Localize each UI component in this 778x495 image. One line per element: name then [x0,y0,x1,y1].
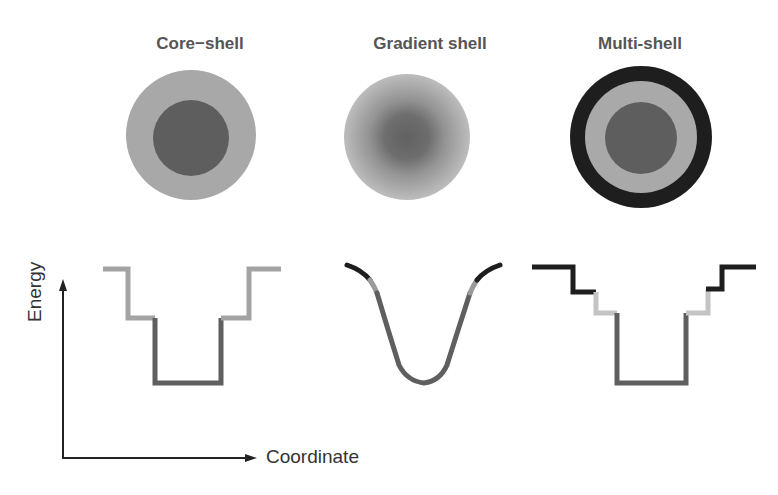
energy-axis [59,279,67,458]
energy-axis-label: Energy [24,262,46,322]
coordinate-axis [62,454,257,462]
diagram-canvas [0,0,778,495]
core-shell-particle [126,70,256,200]
core-shell-energy-profile [103,269,281,383]
multi-shell-particle [570,66,712,208]
multi-shell-energy-profile [532,267,756,383]
gradient-shell-particle [344,74,470,200]
coordinate-axis-label: Coordinate [266,446,359,468]
gradient-shell-energy-profile [347,265,500,383]
